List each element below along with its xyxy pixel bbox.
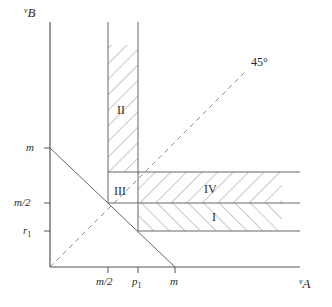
- y-tick-label-m: m: [26, 142, 34, 153]
- y-axis-label-sub: B: [28, 5, 36, 20]
- region-label-IV: IV: [204, 183, 217, 195]
- y-tick-label-r1: r1: [23, 225, 31, 239]
- forty-five-degree-label: 45°: [251, 56, 268, 68]
- region-label-III: III: [114, 185, 126, 197]
- region-label-II: II: [117, 104, 125, 116]
- diagram-canvas: [0, 0, 332, 307]
- forty-five-degree-line: [50, 72, 245, 267]
- x-axis-label: vA: [299, 277, 311, 290]
- x-axis-label-main: v: [299, 277, 303, 286]
- region-I-hatching: [138, 203, 282, 231]
- x-tick-label-m-over-2: m/2: [96, 276, 113, 287]
- y-axis-label: vB: [24, 6, 36, 19]
- x-tick-label-p1: p1: [132, 276, 142, 290]
- region-label-I: I: [212, 211, 216, 223]
- economics-region-diagram: vB vA m m/2 r1 m/2 p1 m II III IV I 45°: [0, 0, 332, 307]
- x-tick-label-m: m: [170, 276, 178, 287]
- y-axis-label-main: v: [24, 6, 28, 15]
- y-tick-label-m-over-2: m/2: [14, 197, 31, 208]
- x-axis-label-sub: A: [303, 276, 311, 291]
